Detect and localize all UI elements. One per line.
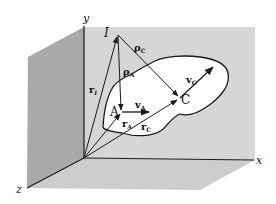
y-axis-label: y xyxy=(82,12,90,25)
x-axis-label: x xyxy=(256,154,263,167)
point-c-label: C xyxy=(181,93,190,107)
rigid-body-kinematics-diagram: y x z I A C rI ρA ρC vA vC rA rC xyxy=(0,0,276,204)
point-a-label: A xyxy=(109,105,119,119)
instant-center-label: I xyxy=(103,26,109,40)
z-axis-label: z xyxy=(15,183,22,196)
